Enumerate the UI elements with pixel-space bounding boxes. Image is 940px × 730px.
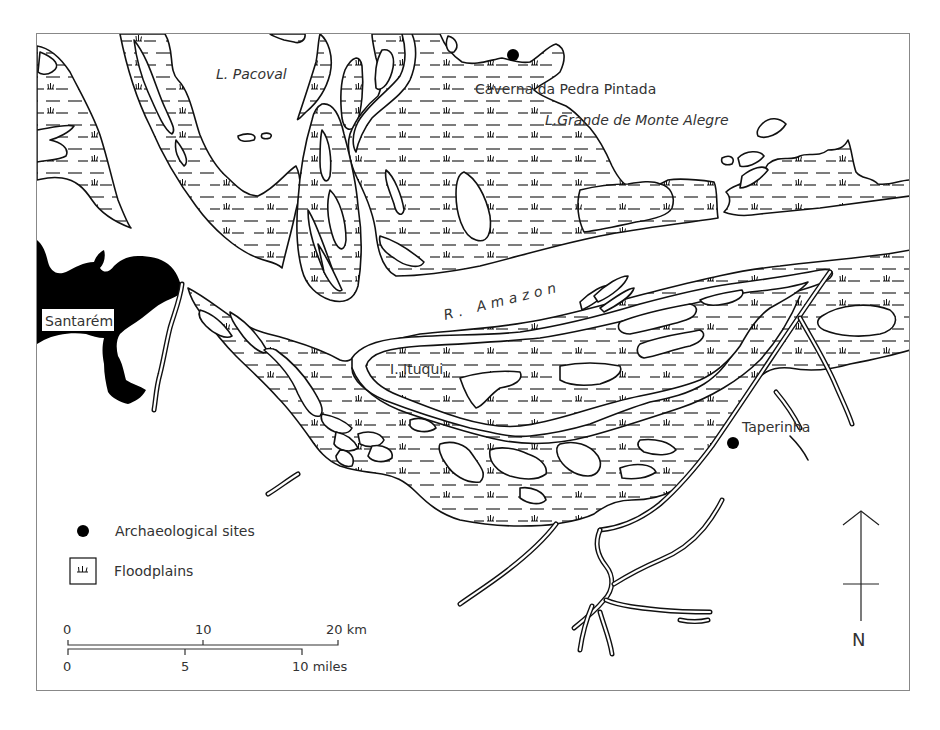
legend-site-icon xyxy=(77,525,89,537)
legend-label-floodplains: Floodplains xyxy=(114,563,193,579)
map-canvas: L. Pacoval Caverna da Pedra Pintada L.Gr… xyxy=(0,0,940,730)
scale-km-20: 20 km xyxy=(326,622,367,637)
label-caverna: Caverna da Pedra Pintada xyxy=(475,81,656,97)
scale-mi-0: 0 xyxy=(63,659,71,674)
map: L. Pacoval Caverna da Pedra Pintada L.Gr… xyxy=(0,0,940,730)
scale-km-0: 0 xyxy=(63,622,71,637)
label-santarem: Santarém xyxy=(45,313,113,329)
legend-label-sites: Archaeological sites xyxy=(115,523,255,539)
site-marker-taperinha xyxy=(727,437,739,449)
site-marker-caverna xyxy=(507,49,519,61)
north-label: N xyxy=(852,629,865,650)
scale-mi-5: 5 xyxy=(181,659,189,674)
label-ituqui: I. Ituqui xyxy=(390,361,443,377)
label-l-pacoval: L. Pacoval xyxy=(216,66,287,82)
label-taperinha: Taperinha xyxy=(741,419,810,435)
scale-mi-10: 10 miles xyxy=(292,659,348,674)
label-monte-alegre: L.Grande de Monte Alegre xyxy=(545,112,729,128)
scale-km-10: 10 xyxy=(195,622,212,637)
